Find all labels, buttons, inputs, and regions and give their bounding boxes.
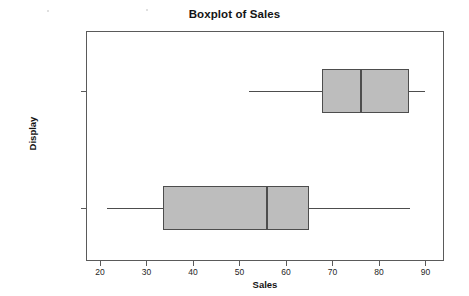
x-tick-mark (239, 261, 240, 266)
whisker-low-endaisle (249, 91, 322, 92)
median-normal (266, 186, 267, 230)
whisker-high-normal (309, 208, 409, 209)
chart-title: Boxplot of Sales (0, 8, 469, 20)
x-tick-label: 90 (410, 267, 440, 277)
whisker-low-normal (107, 208, 163, 209)
x-tick-mark (425, 261, 426, 266)
x-tick-label: 60 (271, 267, 301, 277)
x-tick-label: 30 (131, 267, 161, 277)
y-axis-title: Display (27, 94, 38, 174)
x-tick-mark (379, 261, 380, 266)
boxplot-chart: Boxplot of Sales Display Sales EndAisle … (0, 0, 469, 296)
x-tick-label: 70 (317, 267, 347, 277)
median-endaisle (360, 69, 361, 113)
x-tick-mark (332, 261, 333, 266)
y-tick-mark-endaisle (81, 91, 86, 92)
x-tick-label: 80 (364, 267, 394, 277)
x-tick-label: 50 (224, 267, 254, 277)
x-tick-label: 20 (85, 267, 115, 277)
box-endaisle (322, 69, 409, 113)
x-tick-mark (193, 261, 194, 266)
x-tick-mark (146, 261, 147, 266)
x-axis-title: Sales (86, 279, 444, 290)
x-tick-mark (286, 261, 287, 266)
whisker-high-endaisle (409, 91, 425, 92)
y-tick-mark-normal (81, 208, 86, 209)
box-normal (163, 186, 309, 230)
x-tick-label: 40 (178, 267, 208, 277)
x-tick-mark (100, 261, 101, 266)
